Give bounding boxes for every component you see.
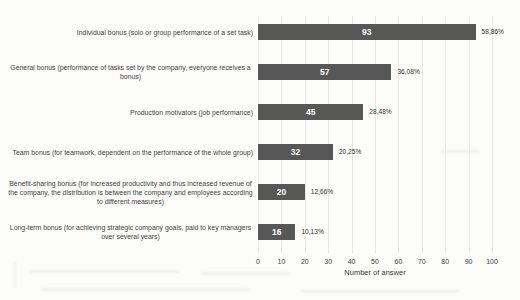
x-tick-label: 90 <box>457 257 481 266</box>
gridline <box>281 16 282 253</box>
category-label: Benefit-sharing bonus (for increased pro… <box>8 179 253 206</box>
percent-label: 36,08% <box>397 67 419 77</box>
gridline <box>445 16 446 253</box>
bar-value-label: 20 <box>277 187 286 197</box>
gridline <box>328 16 329 253</box>
bar-value-label: 45 <box>306 107 315 117</box>
category-label: General bonus (performance of tasks set … <box>8 63 253 81</box>
gridline <box>398 16 399 253</box>
gridline <box>422 16 423 253</box>
bar-value-label: 32 <box>291 147 300 157</box>
x-tick-label: 70 <box>410 257 434 266</box>
category-label-wrap: Production motivators (job performance) <box>8 92 253 132</box>
category-label-wrap: Benefit-sharing bonus (for increased pro… <box>8 172 253 212</box>
bar: 16 <box>258 224 295 240</box>
category-label-wrap: Long-term bonus (for achieving strategic… <box>8 212 253 252</box>
percent-label: 28,48% <box>369 107 391 117</box>
percent-label: 58,86% <box>482 27 504 37</box>
x-axis-title: Number of answer <box>258 268 492 277</box>
scan-artifact <box>300 290 460 293</box>
gridline <box>352 16 353 253</box>
percent-label: 10,13% <box>301 227 323 237</box>
scan-artifact <box>40 288 250 291</box>
scan-artifact <box>200 272 290 275</box>
category-label: Team bonus (for teamwork, dependent on t… <box>12 148 253 157</box>
bar-value-label: 93 <box>362 27 371 37</box>
x-tick-label: 20 <box>293 257 317 266</box>
scan-artifact <box>14 262 16 288</box>
bar-chart: Number of answer 0102030405060708090100I… <box>0 0 520 300</box>
x-tick-label: 60 <box>386 257 410 266</box>
gridline <box>492 16 493 253</box>
x-tick-label: 10 <box>269 257 293 266</box>
gridline <box>305 16 306 253</box>
category-label-wrap: Individual bonus (solo or group performa… <box>8 12 253 52</box>
x-tick-label: 100 <box>480 257 504 266</box>
bar-value-label: 57 <box>320 67 329 77</box>
gridline <box>469 16 470 253</box>
scan-artifact <box>30 270 180 273</box>
category-label: Production motivators (job performance) <box>130 108 253 117</box>
x-tick-label: 50 <box>363 257 387 266</box>
category-label: Long-term bonus (for achieving strategic… <box>8 223 253 241</box>
gridline <box>375 16 376 253</box>
bar: 57 <box>258 64 391 80</box>
bar: 45 <box>258 104 363 120</box>
x-tick-label: 80 <box>433 257 457 266</box>
category-label: Individual bonus (solo or group performa… <box>77 28 253 37</box>
bar: 20 <box>258 184 305 200</box>
bar-value-label: 16 <box>272 227 281 237</box>
gridline <box>258 16 259 253</box>
bar: 32 <box>258 144 333 160</box>
category-label-wrap: General bonus (performance of tasks set … <box>8 52 253 92</box>
x-tick-label: 0 <box>246 257 270 266</box>
x-tick-label: 30 <box>316 257 340 266</box>
bar: 93 <box>258 24 476 40</box>
percent-label: 20,25% <box>339 147 361 157</box>
percent-label: 12,66% <box>311 187 333 197</box>
x-tick-label: 40 <box>340 257 364 266</box>
category-label-wrap: Team bonus (for teamwork, dependent on t… <box>8 132 253 172</box>
